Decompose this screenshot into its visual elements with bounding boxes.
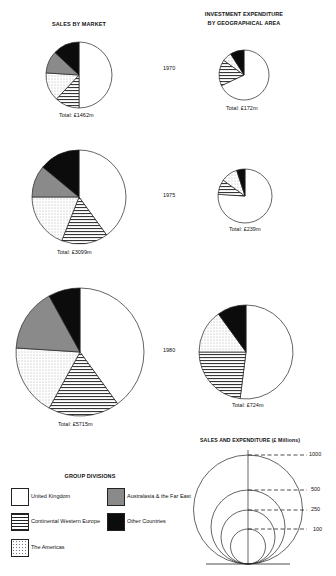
legend-label-continental-europe: Continental Western Europe bbox=[31, 518, 100, 524]
pie-slice bbox=[199, 352, 246, 399]
size-scale-diagram bbox=[194, 450, 308, 564]
sales-total-1970: Total: £1462m bbox=[59, 112, 94, 118]
legend-swatch-other-countries bbox=[107, 513, 125, 531]
year-label-1975: 1975 bbox=[163, 192, 175, 198]
legend-label-other-countries: Other Countries bbox=[127, 518, 166, 524]
scale-tick-500: 500 bbox=[311, 486, 320, 492]
legend-swatch-continental-europe bbox=[11, 513, 29, 531]
investment-title-line2: BY GEOGRAPHICAL AREA bbox=[184, 20, 304, 26]
year-label-1980: 1980 bbox=[163, 347, 175, 353]
legend-label-australasia: Australasia & the Far East bbox=[127, 493, 191, 499]
sales-total-1975: Total: £3099m bbox=[57, 249, 92, 255]
chart-canvas bbox=[0, 0, 336, 576]
scale-tick-100: 100 bbox=[313, 526, 322, 532]
investment-title-line1: INVESTMENT EXPENDITURE bbox=[184, 11, 304, 17]
scale-title: SALES AND EXPENDITURE (£ Millions) bbox=[200, 437, 310, 443]
investment-total-1980: Total: £724m bbox=[232, 402, 264, 408]
sales-total-1980: Total: £5715m bbox=[58, 421, 93, 427]
legend-swatch-australasia bbox=[107, 488, 125, 506]
investment-pie-1975 bbox=[218, 169, 272, 223]
sales-pie-1980 bbox=[16, 288, 144, 416]
legend-title: GROUP DIVISIONS bbox=[40, 473, 140, 479]
sales-pie-1975 bbox=[32, 150, 126, 244]
legend-swatch-americas bbox=[11, 539, 29, 557]
investment-total-1975: Total: £239m bbox=[229, 226, 261, 232]
scale-tick-1000: 1000 bbox=[309, 451, 321, 457]
sales-pie-1970 bbox=[46, 42, 112, 108]
investment-pie-1970 bbox=[219, 50, 269, 100]
pie-slice bbox=[79, 42, 112, 108]
investment-total-1970: Total: £172m bbox=[226, 105, 258, 111]
sales-title: SALES BY MARKET bbox=[20, 21, 138, 27]
legend-label-united-kingdom: United Kingdom bbox=[31, 493, 70, 499]
pie-slice bbox=[240, 305, 293, 399]
legend-label-americas: The Americas bbox=[31, 544, 65, 550]
legend-swatch-united-kingdom bbox=[11, 488, 29, 506]
year-label-1970: 1970 bbox=[163, 65, 175, 71]
investment-pie-1980 bbox=[199, 305, 293, 399]
scale-tick-250: 250 bbox=[311, 506, 320, 512]
